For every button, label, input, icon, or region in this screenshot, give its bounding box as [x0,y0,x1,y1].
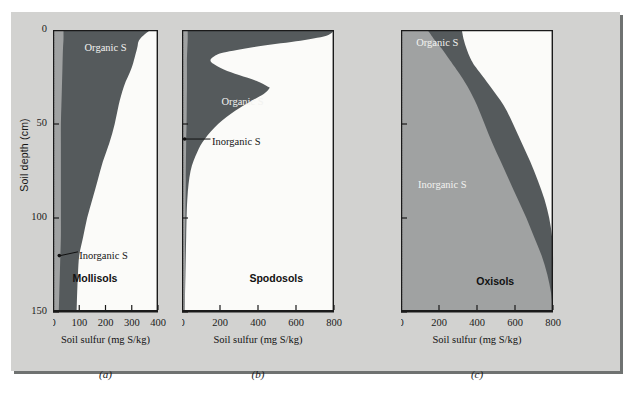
inorganic-s-label: Inorganic S [212,136,261,147]
x-axis-title: Soil sulfur (mg S/kg) [433,334,522,346]
x-axis-title: Soil sulfur (mg S/kg) [61,334,150,346]
y-axis-tick-150: 150 [21,305,47,316]
x-axis-tick-200: 200 [431,317,447,328]
x-axis-tick-100: 100 [71,317,87,328]
soil-type-label: Oxisols [476,275,514,287]
inorganic-s-label: Inorganic S [79,250,128,261]
figure-panel: Soil depth (cm) 050100150 0100200300400S… [11,12,620,371]
x-axis-title: Soil sulfur (mg S/kg) [214,334,303,346]
inorganic-s-label: Inorganic S [418,179,467,190]
x-axis-tick-0: 0 [53,317,56,328]
organic-s-label: Organic S [85,42,127,53]
y-axis-tick-0: 0 [21,23,47,34]
panel-oxisols: 0200400600800Soil sulfur (mg S/kg)Oxisol… [401,30,599,364]
panel-caption-a: (a) [76,368,136,380]
x-axis-tick-200: 200 [98,317,114,328]
organic-s-label: Organic S [416,37,458,48]
x-axis-tick-0: 0 [182,317,185,328]
x-axis-tick-800: 800 [545,317,561,328]
x-axis-tick-0: 0 [401,317,404,328]
y-axis-title: Soil depth (cm) [18,95,30,215]
soil-type-label: Spodosols [249,272,303,284]
x-axis-tick-400: 400 [469,317,485,328]
soil-type-label: Mollisols [73,272,118,284]
x-axis-tick-800: 800 [326,317,342,328]
x-axis-tick-200: 200 [212,317,228,328]
x-axis-tick-300: 300 [124,317,140,328]
y-axis-tick-50: 50 [21,117,47,128]
x-axis-tick-400: 400 [150,317,166,328]
y-axis-tick-100: 100 [21,211,47,222]
x-axis-tick-600: 600 [507,317,523,328]
x-axis-tick-400: 400 [250,317,266,328]
organic-s-label: Organic S [222,96,264,107]
panel-spodosols: 0200400600800Soil sulfur (mg S/kg)Spodos… [182,30,380,364]
x-axis-tick-600: 600 [288,317,304,328]
panel-caption-c: (c) [447,368,507,380]
panel-caption-b: (b) [228,368,288,380]
